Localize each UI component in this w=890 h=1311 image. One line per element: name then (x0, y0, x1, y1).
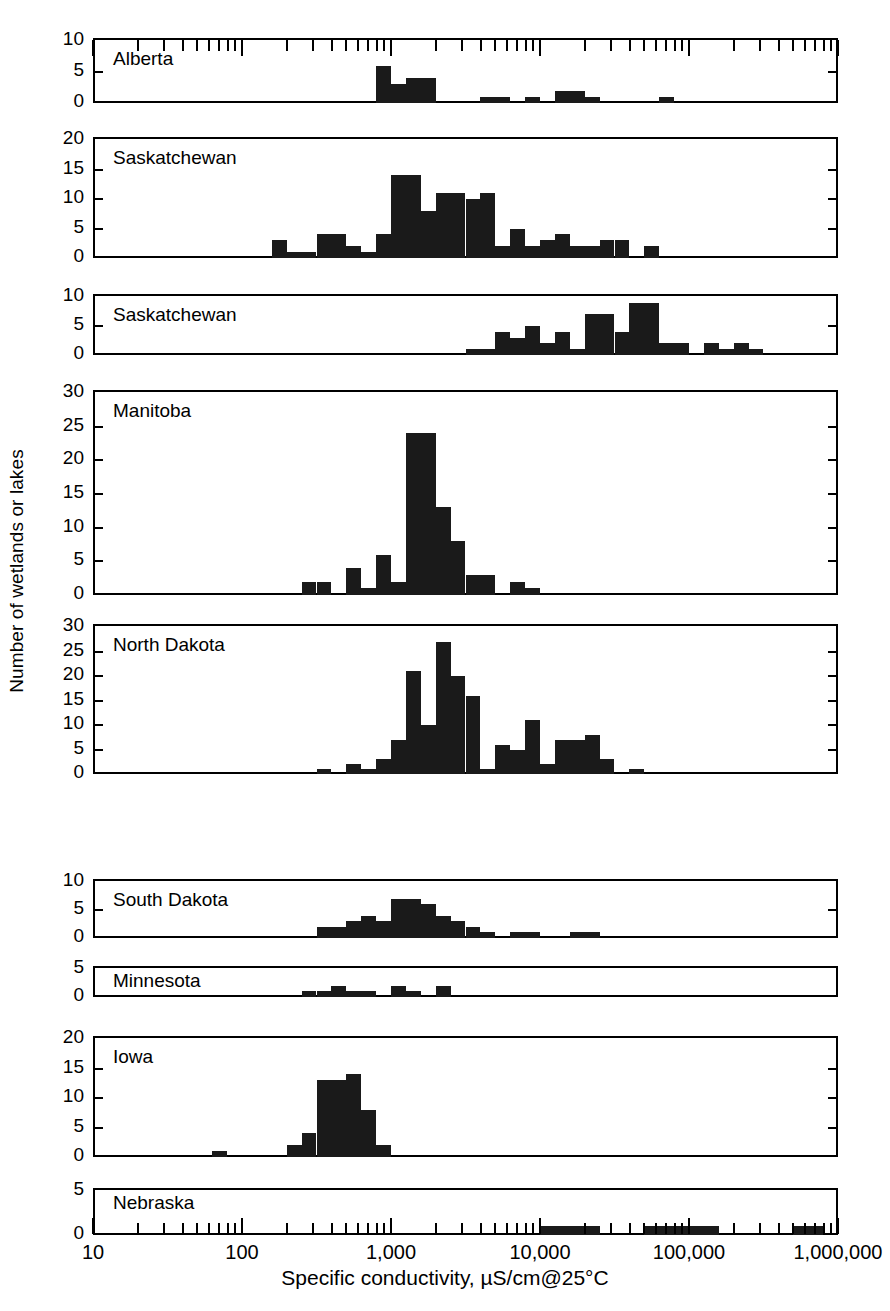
histogram-bar (480, 349, 495, 355)
y-tick-mark (828, 228, 837, 230)
histogram-bar (540, 1226, 555, 1235)
histogram-bar (421, 211, 436, 258)
y-tick-label: 5 (30, 59, 84, 81)
histogram-bar (525, 246, 540, 258)
histogram-bar (317, 1080, 332, 1157)
histogram-bar (376, 1145, 391, 1157)
histogram-bar (317, 234, 332, 258)
panel-plot-area (93, 38, 838, 103)
y-tick-mark (94, 325, 103, 327)
x-minor-tick (286, 40, 288, 51)
panel-region-label: South Dakota (113, 889, 228, 911)
histogram-bar (376, 234, 391, 258)
histogram-bar (466, 199, 481, 258)
histogram-panel: North Dakota (93, 624, 838, 774)
x-minor-tick (182, 1223, 184, 1234)
y-tick-mark (828, 198, 837, 200)
histogram-bar (510, 750, 525, 775)
y-tick-label: 5 (30, 313, 84, 335)
panel-region-label: Saskatchewan (113, 304, 237, 326)
histogram-bar (555, 1226, 570, 1235)
x-minor-tick (759, 1223, 761, 1234)
x-minor-tick (163, 40, 165, 51)
y-tick-mark (94, 724, 103, 726)
x-minor-tick (681, 40, 683, 51)
histogram-bar (436, 193, 451, 258)
histogram-bar (510, 338, 525, 355)
x-minor-tick (345, 40, 347, 51)
y-tick-label: 5 (30, 1115, 84, 1137)
histogram-bar (600, 240, 615, 258)
histogram-bar (704, 343, 719, 355)
y-tick-label: 15 (30, 481, 84, 503)
histogram-bar (376, 555, 391, 595)
histogram-bar (317, 769, 332, 774)
x-minor-tick (584, 1223, 586, 1234)
y-tick-mark (94, 71, 103, 73)
histogram-bar (585, 314, 600, 355)
y-tick-label: 5 (30, 897, 84, 919)
x-minor-tick (525, 40, 527, 51)
histogram-bar (600, 759, 615, 774)
histogram-bar (615, 332, 630, 355)
y-tick-label: 0 (30, 245, 84, 267)
x-minor-tick (778, 1223, 780, 1234)
histogram-bar (585, 246, 600, 258)
histogram-bar (406, 991, 421, 997)
histogram-bar (659, 343, 674, 355)
y-tick-mark (828, 651, 837, 653)
x-minor-tick (480, 40, 482, 51)
x-minor-tick (196, 40, 198, 51)
histogram-bar (495, 97, 510, 103)
x-minor-tick (357, 40, 359, 51)
y-tick-mark (94, 1068, 103, 1070)
y-tick-mark (828, 426, 837, 428)
x-minor-tick (367, 40, 369, 51)
histogram-bar (451, 193, 466, 258)
histogram-bar (436, 642, 451, 774)
y-tick-label: 0 (30, 582, 84, 604)
x-minor-tick (778, 40, 780, 51)
x-minor-tick (655, 1223, 657, 1234)
x-minor-tick (665, 40, 667, 51)
y-tick-mark (94, 700, 103, 702)
x-tick-label: 1,000 (311, 1241, 471, 1264)
y-tick-label: 25 (30, 639, 84, 661)
histogram-bar (585, 1226, 600, 1235)
y-tick-label: 15 (30, 157, 84, 179)
x-minor-tick (532, 40, 534, 51)
histogram-bar (495, 745, 510, 774)
histogram-bar (600, 314, 615, 355)
histogram-bar (406, 433, 421, 595)
histogram-bar (540, 343, 555, 355)
histogram-bar (480, 575, 495, 595)
histogram-panel: Alberta (93, 38, 838, 103)
x-minor-tick (525, 1223, 527, 1234)
histogram-bar (570, 1226, 585, 1235)
panel-region-label: Alberta (113, 48, 173, 70)
histogram-bar (480, 769, 495, 774)
histogram-bar (495, 332, 510, 355)
histogram-bar (734, 343, 749, 355)
histogram-bar (525, 97, 540, 103)
histogram-bar (406, 175, 421, 258)
histogram-bar (391, 582, 406, 595)
x-minor-tick (196, 1223, 198, 1234)
x-minor-tick (584, 40, 586, 51)
x-major-tick (688, 1218, 690, 1234)
y-tick-label: 20 (30, 447, 84, 469)
histogram-bar (480, 97, 495, 103)
x-major-tick (539, 1218, 541, 1234)
x-minor-tick (331, 1223, 333, 1234)
histogram-bar (391, 175, 406, 258)
x-minor-tick (494, 40, 496, 51)
histogram-bar (346, 764, 361, 774)
histogram-bar (525, 588, 540, 595)
y-tick-label: 15 (30, 688, 84, 710)
x-major-tick (92, 40, 94, 56)
x-major-tick (390, 1218, 392, 1234)
x-minor-tick (383, 1223, 385, 1234)
y-tick-label: 10 (30, 1085, 84, 1107)
y-tick-mark (94, 459, 103, 461)
y-tick-mark (828, 71, 837, 73)
